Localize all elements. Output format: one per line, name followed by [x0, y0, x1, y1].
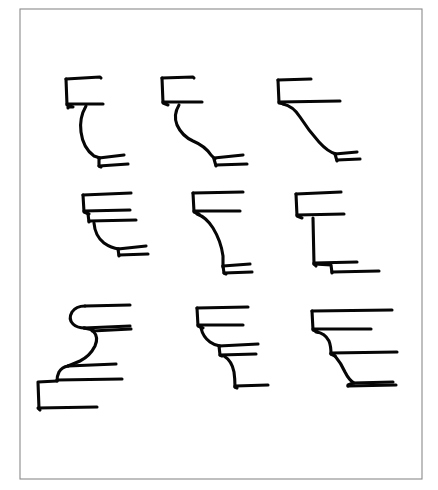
figure-plate-container: [0, 0, 438, 490]
triple-stepped-bracket-profile-segment: [219, 344, 258, 346]
quirked-cavetto-stack-profile-segment: [331, 352, 397, 353]
double-ogee-base-profile-segment: [39, 409, 40, 410]
double-ogee-base-profile-segment: [84, 326, 130, 328]
stacked-fillet-cavetto-profile-segment: [84, 210, 130, 211]
scotia-bracket-profile-segment: [223, 264, 250, 266]
double-ogee-base-profile-segment: [92, 329, 131, 331]
ogee-cornice-profile-segment: [216, 164, 247, 165]
cyma-recta-cornice-profile-segment: [337, 159, 360, 160]
moulding-profiles-drawing: [0, 0, 438, 490]
double-ogee-base-profile-segment: [38, 407, 97, 408]
double-ogee-base-profile-segment: [68, 364, 116, 366]
double-ogee-base-profile-segment: [57, 379, 122, 380]
triple-stepped-bracket-profile-segment: [220, 354, 256, 355]
stepped-fascia-profile-segment: [332, 271, 379, 272]
cyma-recta-cornice-profile-segment: [278, 79, 311, 80]
triple-stepped-bracket-profile-segment: [197, 307, 248, 308]
stacked-fillet-cavetto-profile-segment: [83, 193, 131, 195]
cyma-recta-cornice-profile-segment: [335, 152, 357, 154]
triple-stepped-bracket-profile-segment: [235, 387, 237, 388]
stepped-fascia-profile-segment: [296, 192, 341, 194]
ogee-cornice-profile-segment: [162, 77, 194, 78]
stacked-fillet-cavetto-profile-segment: [119, 254, 148, 255]
scotia-bracket-profile-segment: [224, 272, 252, 273]
cavetto-cornice-profile-segment: [99, 164, 128, 166]
quirked-cavetto-stack-profile-segment: [312, 310, 392, 311]
triple-stepped-bracket-profile-segment: [235, 385, 268, 386]
cyma-recta-cornice-profile-segment: [279, 101, 340, 102]
quirked-cavetto-stack-profile-segment: [348, 385, 396, 386]
stepped-fascia-profile-segment: [297, 214, 344, 215]
cavetto-cornice-profile-segment: [66, 77, 101, 79]
stacked-fillet-cavetto-profile-segment: [89, 220, 136, 221]
double-ogee-base-profile-segment: [85, 305, 130, 306]
quirked-cavetto-stack-profile-segment: [353, 382, 393, 383]
scotia-bracket-profile-segment: [193, 192, 243, 193]
